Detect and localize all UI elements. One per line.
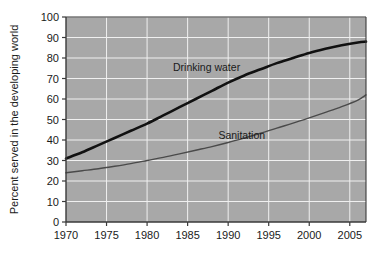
y-axis-tick-label: 40	[47, 134, 59, 146]
y-axis-tick-label: 100	[41, 11, 59, 23]
x-axis-tick-label: 1995	[256, 229, 280, 241]
y-axis-tick-label: 70	[47, 73, 59, 85]
y-axis-title: Percent served in the developing world	[8, 25, 20, 215]
line-chart: 0102030405060708090100 19701975198019851…	[0, 0, 387, 263]
y-axis-tick-label: 80	[47, 52, 59, 64]
x-axis-tick-label: 1990	[216, 229, 240, 241]
y-axis-tick-label: 50	[47, 114, 59, 126]
x-axis-tick-label: 2000	[297, 229, 321, 241]
series-label-drinking-water: Drinking water	[173, 61, 241, 73]
y-axis-tick-label: 90	[47, 32, 59, 44]
chart-container: 0102030405060708090100 19701975198019851…	[0, 0, 387, 263]
y-axis-tick-label: 30	[47, 155, 59, 167]
y-axis-tick-label: 0	[53, 216, 59, 228]
x-axis-tick-label: 2005	[338, 229, 362, 241]
x-axis-tick-label: 1970	[54, 229, 78, 241]
y-axis-tick-label: 20	[47, 175, 59, 187]
x-axis-tick-label: 1985	[175, 229, 199, 241]
y-axis-tick-label: 10	[47, 196, 59, 208]
x-axis-tick-label: 1980	[135, 229, 159, 241]
series-label-sanitation: Sanitation	[218, 129, 265, 141]
x-axis-tick-label: 1975	[94, 229, 118, 241]
y-axis-tick-label: 60	[47, 93, 59, 105]
